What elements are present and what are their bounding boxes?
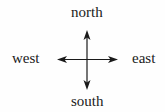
cross-arrows-icon: [0, 0, 165, 112]
compass-diagram: north west east south: [0, 0, 165, 112]
